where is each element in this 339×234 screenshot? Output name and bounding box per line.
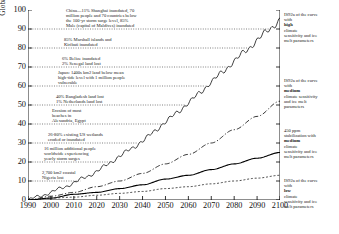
series-annotation-3: IS92a of the curvewith low climatesensit… bbox=[284, 178, 338, 209]
x-tick-2090: 2090 bbox=[249, 201, 265, 210]
x-tick-2050: 2050 bbox=[157, 201, 173, 210]
x-tick-2060: 2060 bbox=[180, 201, 196, 210]
x-tick-2000: 2000 bbox=[43, 201, 59, 210]
y-tick-60: 60 bbox=[18, 82, 26, 90]
series-annotation-line: melt parameters bbox=[284, 204, 338, 209]
impact-annotation-line: Kiribati inundated bbox=[64, 42, 112, 47]
series-annotation-line: melt parameters bbox=[284, 38, 338, 43]
series-annotation-2: 450 ppmstabilization withmedium climates… bbox=[284, 128, 338, 159]
x-tick-2040: 2040 bbox=[134, 201, 150, 210]
x-tick-2020: 2020 bbox=[89, 201, 105, 210]
impact-annotation-line: 1% Netherlands land lost bbox=[56, 99, 104, 104]
impact-annotation-line: Alexandria, Egypt bbox=[52, 118, 86, 123]
impact-annotation-line: Male (capital of Maldives) inundated bbox=[66, 23, 137, 28]
y-tick-100: 100 bbox=[13, 6, 26, 14]
y-tick-10: 10 bbox=[18, 177, 26, 185]
x-tick-2080: 2080 bbox=[226, 201, 242, 210]
impact-annotation-10cm: 2,700 km2 coastalNigeria lost bbox=[42, 170, 76, 180]
impact-annotation-line: eroded or inundated bbox=[48, 137, 103, 142]
series-annotation-line: melt parameters bbox=[284, 154, 338, 159]
impact-annotation-40cm: Erosion of mostbeaches inAlexandria, Egy… bbox=[52, 108, 86, 123]
x-tick-2070: 2070 bbox=[203, 201, 219, 210]
y-tick-30: 30 bbox=[18, 139, 26, 147]
impact-annotation-line: yearly storm surges bbox=[44, 156, 96, 161]
y-tick-40: 40 bbox=[18, 120, 26, 128]
y-tick-90: 90 bbox=[18, 25, 26, 33]
impact-annotation-line: Nigeria lost bbox=[42, 175, 76, 180]
chart-root: Global/Relative sea level rise [cm] 100 … bbox=[0, 0, 339, 234]
impact-annotation-line: vulnerable bbox=[58, 80, 125, 85]
series-annotation-1: IS92a of the curvewith mediumclimate sen… bbox=[284, 78, 338, 109]
y-tick-70: 70 bbox=[18, 63, 26, 71]
impact-annotation-60cm: Japan: 1400s km2 land below meanhigh-tid… bbox=[58, 70, 125, 85]
impact-annotation-line: 2% Senegal land lost bbox=[62, 61, 101, 66]
impact-annotation-50cm: 40% Bangladesh land lost1% Netherlands l… bbox=[56, 94, 104, 104]
y-tick-20: 20 bbox=[18, 158, 26, 166]
y-tick-80: 80 bbox=[18, 44, 26, 52]
series-annotation-0: IS92a of the curvewith high climatesensi… bbox=[284, 12, 338, 43]
y-axis-ticks: 100 90 80 70 60 50 40 30 20 10 0 bbox=[0, 0, 26, 234]
impact-annotation-30cm: 26-80% existing US wetlandseroded or inu… bbox=[48, 132, 103, 142]
x-tick-2010: 2010 bbox=[66, 201, 82, 210]
x-tick-1990: 1990 bbox=[20, 201, 36, 210]
impact-annotation-90cm: China—11% Shanghai inundated, 70million … bbox=[66, 8, 137, 28]
y-tick-50: 50 bbox=[18, 101, 26, 109]
impact-annotation-20cm: 16 million additional peopleworldwide ex… bbox=[44, 146, 96, 161]
impact-annotation-70cm: 6% Belize inundated2% Senegal land lost bbox=[62, 56, 101, 66]
series-annotation-line: parameters bbox=[284, 104, 338, 109]
impact-annotation-80cm: 85% Marshall islands andKiribati inundat… bbox=[64, 37, 112, 47]
x-tick-2030: 2030 bbox=[111, 201, 127, 210]
